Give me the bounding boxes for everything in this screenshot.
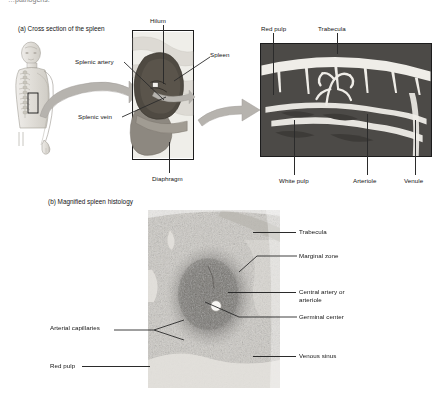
leader-splenic-vein bbox=[122, 95, 170, 119]
label-hilum: Hilum bbox=[150, 17, 166, 24]
label-spleen: Spleen bbox=[210, 51, 230, 58]
spleen-micrograph bbox=[148, 210, 280, 388]
leader-white-pulp bbox=[294, 120, 295, 175]
page-header-text: …pathogens. bbox=[8, 0, 50, 3]
leader-marginal-zone bbox=[213, 250, 297, 276]
label-central-artery-line1: Central artery or bbox=[299, 288, 345, 295]
label-trabecula-b: Trabecula bbox=[299, 228, 327, 235]
label-venous-sinus: Venous sinus bbox=[299, 352, 336, 359]
leader-germinal-center bbox=[205, 300, 297, 320]
leader-red-pulp-top bbox=[273, 33, 274, 95]
label-central-artery-line2: arteriole bbox=[299, 296, 322, 303]
label-diaphragm: Diaphragm bbox=[152, 175, 183, 182]
leader-trabecula-b bbox=[253, 232, 296, 233]
leader-venous-sinus bbox=[253, 356, 296, 357]
arrow-section-to-pulp bbox=[196, 96, 262, 130]
panel-a-title: (a) Cross section of the spleen bbox=[18, 25, 105, 32]
label-trabecula-top: Trabecula bbox=[318, 25, 346, 32]
label-splenic-artery: Splenic artery bbox=[75, 58, 114, 65]
label-splenic-vein: Splenic vein bbox=[78, 113, 112, 120]
leader-diaphragm bbox=[169, 142, 170, 173]
spleen-pulp-diagram bbox=[260, 43, 432, 157]
leader-spleen bbox=[172, 55, 212, 83]
spleen-figure: …pathogens. (a) Cross section of the spl… bbox=[0, 0, 439, 396]
label-venule: Venule bbox=[404, 177, 423, 184]
panel-b-title: (b) Magnified spleen histology bbox=[48, 198, 133, 205]
label-marginal-zone: Marginal zone bbox=[299, 252, 339, 259]
label-red-pulp-b: Red pulp bbox=[50, 362, 75, 369]
label-arterial-capillaries: Arterial capillaries bbox=[50, 324, 100, 331]
label-red-pulp-top: Red pulp bbox=[261, 25, 286, 32]
label-arteriole-top: Arteriole bbox=[353, 177, 377, 184]
leader-central-artery bbox=[228, 292, 296, 293]
leader-hilum bbox=[163, 25, 164, 84]
label-central-artery: Central artery or arteriole bbox=[299, 288, 371, 304]
label-germinal-center: Germinal center bbox=[299, 313, 344, 320]
leader-trabecula-top bbox=[337, 33, 338, 54]
label-white-pulp: White pulp bbox=[279, 177, 309, 184]
leader-arterial-capillaries bbox=[114, 318, 186, 344]
leader-venule bbox=[415, 120, 416, 175]
leader-arteriole-top bbox=[367, 114, 368, 175]
leader-red-pulp-b bbox=[82, 366, 150, 367]
